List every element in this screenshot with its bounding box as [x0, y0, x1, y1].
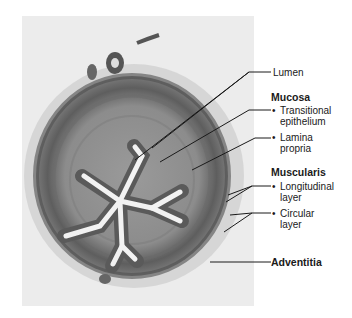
label-lumen: Lumen: [273, 67, 304, 78]
label-longitudinal-layer-line2: layer: [280, 192, 302, 203]
heading-adventitia: Adventitia: [271, 256, 322, 268]
leader-lines: [0, 0, 352, 318]
label-lamina-propria-line1: Lamina: [280, 132, 313, 143]
label-longitudinal-layer-line1: Longitudinal: [280, 181, 334, 192]
label-transitional-epithelium-line2: epithelium: [280, 116, 326, 127]
heading-mucosa: Mucosa: [271, 91, 310, 103]
label-lamina-propria-line2: propria: [280, 143, 311, 154]
label-circular-layer-line1: Circular: [280, 208, 314, 219]
label-transitional-epithelium-line1: Transitional: [280, 105, 331, 116]
label-circular-layer-line2: layer: [280, 219, 302, 230]
heading-muscularis: Muscularis: [271, 166, 326, 178]
